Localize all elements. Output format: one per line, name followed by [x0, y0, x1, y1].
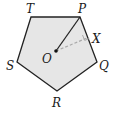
label-Q: Q — [99, 59, 109, 73]
label-R: R — [51, 96, 61, 110]
label-S: S — [6, 59, 14, 73]
pentagon-diagram: T P X O S Q R — [0, 0, 114, 117]
center-point-O — [54, 49, 58, 53]
pentagon-PQRST — [17, 17, 97, 91]
label-T: T — [26, 2, 35, 16]
label-P: P — [77, 2, 87, 16]
label-X: X — [91, 32, 101, 46]
label-O: O — [42, 52, 52, 66]
